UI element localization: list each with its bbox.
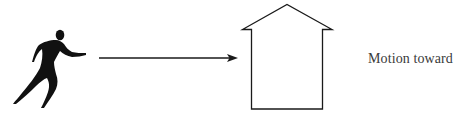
house-outline-icon: [243, 5, 333, 110]
right-arrow-icon: [99, 54, 238, 62]
running-person-icon: [13, 30, 86, 108]
caption-motion-toward: Motion toward: [368, 51, 453, 67]
motion-toward-diagram: Motion toward: [0, 0, 467, 118]
